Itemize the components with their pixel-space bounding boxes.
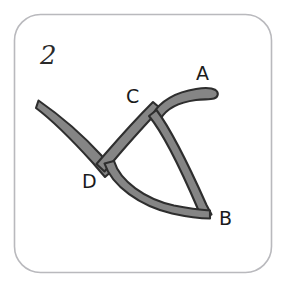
figure-canvas: 2 A B C D bbox=[0, 0, 286, 288]
vertex-label-a: A bbox=[196, 62, 209, 84]
figure-drawing: 2 A B C D bbox=[0, 0, 286, 288]
vertex-label-d: D bbox=[82, 170, 97, 192]
figure-number-label: 2 bbox=[39, 40, 57, 70]
vertex-label-b: B bbox=[219, 207, 232, 229]
vertex-label-c: C bbox=[126, 85, 139, 107]
